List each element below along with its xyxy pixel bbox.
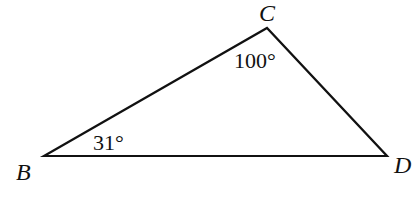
angle-label-c: 100° [234, 48, 276, 73]
angle-label-b: 31° [93, 130, 124, 155]
vertex-label-d: D [393, 152, 411, 178]
vertex-label-c: C [259, 0, 276, 26]
vertex-label-b: B [16, 159, 31, 185]
triangle-diagram: B C D 100° 31° [0, 0, 414, 201]
